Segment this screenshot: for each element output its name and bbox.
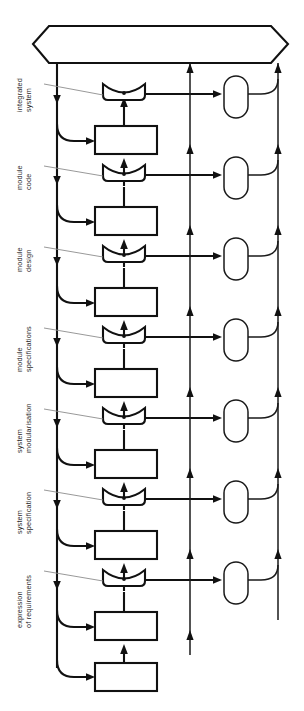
arrow-down-1 <box>53 95 61 104</box>
stage-label-line1: expression <box>15 591 24 628</box>
rect-3 <box>95 288 157 316</box>
stage-label-module-specifications: module specifications <box>15 326 33 372</box>
stage-label-line2: specification <box>24 492 33 534</box>
stage-label-line2: code <box>24 174 33 190</box>
stage-label-integrated-system: integrated system <box>15 78 33 112</box>
capsule-4 <box>224 319 248 361</box>
leader-lines <box>44 84 103 581</box>
stage-label-line2: modularisation <box>24 403 33 453</box>
stage-label-module-design: module design <box>15 247 33 272</box>
stage-label-line1: integrated <box>15 78 24 112</box>
stage-label-expression-of-requirements: expression of requirements <box>15 575 33 628</box>
capsule-3 <box>224 238 248 280</box>
stage-label-line1: system <box>15 510 24 534</box>
arrow-down-2 <box>53 176 61 185</box>
stage-label-line1: module <box>15 347 24 372</box>
capsule-7 <box>224 562 248 604</box>
arrow-down-4 <box>53 338 61 347</box>
right-riser <box>274 63 281 620</box>
arrow-down-7 <box>53 581 61 590</box>
rect-1 <box>95 126 157 154</box>
rect-5 <box>95 450 157 478</box>
capsule-exits <box>248 79 278 580</box>
stage-label-module-code: module code <box>15 165 33 190</box>
lifecycle-diagram: integrated system module code module des… <box>0 0 304 711</box>
stage-label-line1: module <box>15 247 24 272</box>
stage-label-line2: system <box>24 88 33 112</box>
rect-bottom <box>95 663 157 691</box>
cup-1 <box>103 84 222 100</box>
arrow-down-5 <box>53 419 61 428</box>
stage-label-line2: specifications <box>24 326 33 372</box>
rect-2 <box>95 207 157 235</box>
left-branches <box>57 124 95 681</box>
rect-6 <box>95 531 157 559</box>
middle-riser <box>186 63 193 655</box>
arrow-down-6 <box>53 500 61 509</box>
stage-label-line2: design <box>24 250 33 272</box>
integrated-system-bus <box>33 26 288 63</box>
stage-label-line1: system <box>15 429 24 453</box>
capsule-1 <box>224 76 248 118</box>
arrow-down-3 <box>53 257 61 266</box>
stage-label-line1: module <box>15 165 24 190</box>
capsule-6 <box>224 481 248 523</box>
capsule-5 <box>224 400 248 442</box>
stage-label-system-specification: system specification <box>15 492 33 534</box>
capsule-2 <box>224 157 248 199</box>
stage-label-line2: of requirements <box>24 575 33 628</box>
rect-7 <box>95 612 157 640</box>
stage-label-system-modularisation: system modularisation <box>15 403 33 453</box>
rect-4 <box>95 369 157 397</box>
